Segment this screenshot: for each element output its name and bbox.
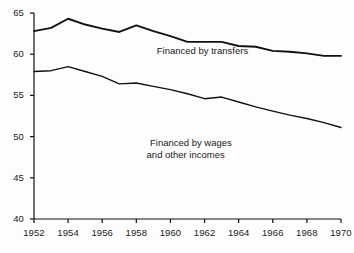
x-axis-tick-label: 1970: [324, 227, 354, 238]
x-axis-tick-label: 1956: [85, 227, 119, 238]
y-axis-tick-label: 60: [2, 48, 24, 59]
data-series-group: [34, 19, 341, 128]
y-axis-tick-label: 40: [2, 213, 24, 224]
y-axis-tick-label: 45: [2, 172, 24, 183]
x-axis-tick-label: 1968: [290, 227, 324, 238]
x-axis-tick-label: 1958: [119, 227, 153, 238]
x-axis-tick-label: 1960: [153, 227, 187, 238]
series-line-2: [34, 67, 341, 128]
wages-label-line2: and other incomes: [147, 149, 225, 161]
x-axis-tick-label: 1964: [222, 227, 256, 238]
y-axis-tick-label: 50: [2, 131, 24, 142]
x-axis-ticks: [34, 219, 341, 223]
wages-label-line1: Financed by wages: [150, 137, 232, 149]
y-axis-tick-label: 65: [2, 7, 24, 18]
x-axis-tick-label: 1952: [17, 227, 51, 238]
plot-area: [0, 0, 354, 253]
line-chart: 404550556065 195219541956195819601962196…: [0, 0, 354, 253]
y-axis-tick-label: 55: [2, 89, 24, 100]
x-axis-tick-label: 1966: [256, 227, 290, 238]
x-axis-tick-label: 1954: [51, 227, 85, 238]
x-axis-tick-label: 1962: [188, 227, 222, 238]
transfers-label: Financed by transfers: [157, 45, 248, 57]
